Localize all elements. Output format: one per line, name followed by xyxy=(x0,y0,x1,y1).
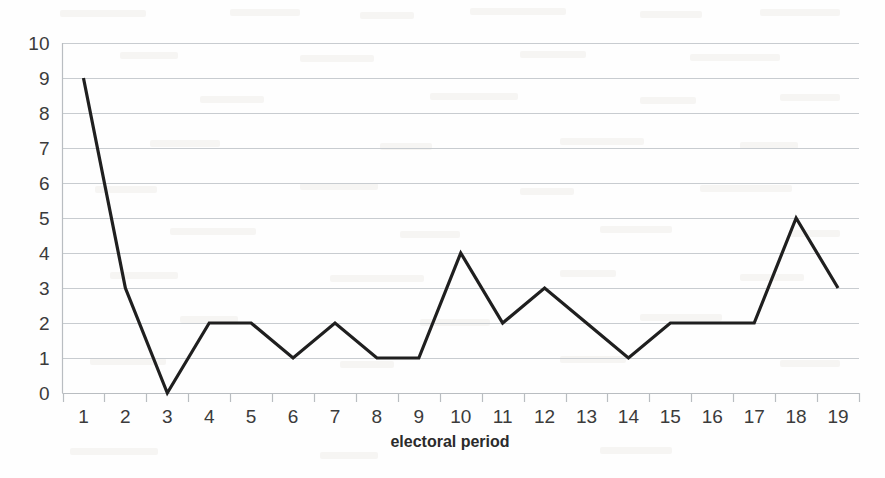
y-tick-label: 9 xyxy=(39,68,50,89)
gridline-group xyxy=(63,44,860,394)
y-tick-label: 0 xyxy=(39,383,50,404)
data-series-line xyxy=(83,78,838,393)
y-tick-label: 2 xyxy=(39,313,50,334)
x-tick-label: 11 xyxy=(493,406,513,427)
x-tick-label: 9 xyxy=(414,406,425,427)
x-tick-label: 2 xyxy=(120,406,131,427)
x-tick-label: 6 xyxy=(288,406,299,427)
x-tick-label: 1 xyxy=(78,406,89,427)
x-tick-label: 19 xyxy=(827,406,848,427)
y-tick-label: 8 xyxy=(39,103,50,124)
y-tick-label: 4 xyxy=(39,243,50,264)
x-tick-label: 13 xyxy=(576,406,597,427)
x-tick-label: 8 xyxy=(372,406,383,427)
x-tick-label: 12 xyxy=(534,406,555,427)
x-tick-label: 14 xyxy=(618,406,640,427)
x-tick-label: 7 xyxy=(330,406,341,427)
y-tick-label: 10 xyxy=(28,33,49,54)
x-tick-label: 15 xyxy=(660,406,681,427)
y-tick-label: 1 xyxy=(39,348,50,369)
chart-page: 012345678910 123456789101112131415161718… xyxy=(0,0,885,478)
x-tick-label: 3 xyxy=(162,406,173,427)
x-tick-label: 17 xyxy=(744,406,765,427)
x-tick-label: 4 xyxy=(204,406,215,427)
line-chart: 012345678910 123456789101112131415161718… xyxy=(0,0,885,478)
y-tick-label: 5 xyxy=(39,208,50,229)
x-tickmark-group xyxy=(63,393,860,402)
y-tick-label: 7 xyxy=(39,138,50,159)
y-tick-label: 3 xyxy=(39,278,50,299)
x-axis-title: electoral period xyxy=(390,433,509,450)
x-axis-tick-labels: 12345678910111213141516171819 xyxy=(78,406,848,427)
x-tick-label: 18 xyxy=(786,406,807,427)
x-tick-label: 5 xyxy=(246,406,257,427)
x-tick-label: 10 xyxy=(450,406,471,427)
y-tick-label: 6 xyxy=(39,173,50,194)
y-axis-tick-labels: 012345678910 xyxy=(28,33,50,404)
x-tick-label: 16 xyxy=(702,406,723,427)
